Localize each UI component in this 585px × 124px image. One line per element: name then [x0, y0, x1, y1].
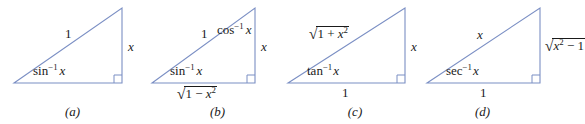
triangle-c-outline: [288, 8, 405, 83]
triangle-b-opposite-label: x: [261, 40, 267, 53]
triangle-a-angle-label: sin−1x: [33, 64, 65, 77]
triangle-a-angle-fn: sin: [33, 63, 48, 78]
inverse-trig-triangles-figure: 1 x sin−1x (a) 1 x sin−1x cos−1x √1 − x2…: [0, 0, 585, 124]
radicand-b: 1 − x2: [184, 86, 217, 100]
triangle-a-angle-arg: x: [60, 63, 66, 78]
panel-caption-d: (d): [425, 104, 540, 120]
sqrt-1-minus-x-squared: √1 − x2: [177, 86, 217, 101]
triangle-d-hypotenuse-label: x: [477, 28, 483, 41]
triangle-a-graphic: [0, 0, 145, 100]
radicand-c: 1 + x2: [316, 26, 349, 40]
panel-caption-c: (c): [285, 104, 425, 120]
triangle-d-opposite-label: √x2 − 1: [545, 38, 585, 53]
triangle-d-angle-fn: sec: [446, 63, 463, 78]
triangle-panel-c: √1 + x2 x tan−1x 1 (c): [285, 0, 425, 124]
triangle-d-angle-label: sec−1x: [446, 64, 479, 77]
triangle-panel-d: x √x2 − 1 sec−1x 1 (d): [425, 0, 585, 124]
triangle-c-angle-exp: −1: [323, 62, 332, 72]
triangle-b-outline: [152, 8, 255, 83]
triangle-panel-a: 1 x sin−1x (a): [0, 0, 145, 124]
triangle-d-angle-exp: −1: [463, 62, 472, 72]
right-angle-marker-c: [397, 75, 405, 83]
triangle-c-hypotenuse-label: √1 + x2: [309, 26, 349, 41]
triangle-d-outline: [427, 8, 540, 83]
panel-caption-a: (a): [0, 104, 145, 120]
triangle-b-top-angle-arg: x: [246, 22, 252, 37]
triangle-b-adjacent-label: √1 − x2: [177, 86, 217, 101]
triangle-panel-b: 1 x sin−1x cos−1x √1 − x2 (b): [145, 0, 290, 124]
triangle-c-angle-label: tan−1x: [307, 64, 339, 77]
right-angle-marker-b: [247, 75, 255, 83]
triangle-a-hypotenuse-label: 1: [65, 27, 72, 40]
triangle-b-angle-arg: x: [197, 63, 203, 78]
panel-caption-b: (b): [145, 104, 290, 120]
triangle-b-angle-fn: sin: [170, 63, 185, 78]
triangle-c-opposite-label: x: [411, 40, 417, 53]
triangle-c-angle-arg: x: [333, 63, 339, 78]
radicand-c-exp: 2: [344, 24, 348, 34]
triangle-b-graphic: [145, 0, 290, 100]
triangle-b-top-angle-exp: −1: [234, 21, 243, 31]
sqrt-1-plus-x-squared: √1 + x2: [309, 26, 349, 41]
triangle-c-angle-fn: tan: [307, 63, 323, 78]
triangle-a-angle-exp: −1: [48, 62, 57, 72]
triangle-b-hypotenuse-label: 1: [201, 27, 208, 40]
triangle-b-angle-exp: −1: [185, 62, 194, 72]
triangle-d-angle-arg: x: [473, 63, 479, 78]
triangle-a-opposite-label: x: [128, 40, 134, 53]
right-angle-marker-a: [114, 75, 122, 83]
triangle-c-adjacent-label: 1: [342, 86, 349, 99]
sqrt-x-squared-minus-1: √x2 − 1: [545, 38, 585, 53]
triangle-b-top-angle-label: cos−1x: [217, 23, 252, 36]
radicand-d: x2 − 1: [552, 38, 585, 52]
triangle-a-outline: [14, 8, 122, 83]
radicand-b-exp: 2: [212, 84, 216, 94]
right-angle-marker-d: [532, 75, 540, 83]
triangle-b-top-angle-fn: cos: [217, 22, 234, 37]
triangle-b-angle-label: sin−1x: [170, 64, 202, 77]
triangle-c-graphic: [285, 0, 425, 100]
triangle-d-adjacent-label: 1: [480, 86, 487, 99]
